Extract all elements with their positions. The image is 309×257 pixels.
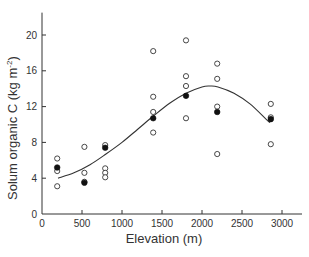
- y-tick-label: 4: [31, 173, 37, 184]
- open-data-point: [103, 175, 108, 180]
- x-tick-label: 500: [74, 218, 91, 229]
- chart: 050010001500200025003000 048121620 Eleva…: [0, 0, 309, 257]
- y-ticks: 048121620: [26, 30, 46, 220]
- x-tick-label: 2500: [231, 218, 254, 229]
- open-data-point: [151, 130, 156, 135]
- open-data-point: [215, 151, 220, 156]
- x-tick-label: 1000: [111, 218, 134, 229]
- y-axis-label: Solum organic C (kg m-2): [5, 56, 20, 200]
- open-data-point: [268, 142, 273, 147]
- open-data-point: [215, 104, 220, 109]
- open-data-point: [215, 61, 220, 66]
- open-data-point: [268, 101, 273, 106]
- y-tick-label: 12: [26, 101, 38, 112]
- open-data-point: [183, 116, 188, 121]
- open-data-point: [55, 156, 60, 161]
- y-tick-label: 20: [26, 30, 38, 41]
- filled-data-point: [150, 115, 156, 121]
- filled-data-point: [183, 93, 189, 99]
- open-data-point: [215, 76, 220, 81]
- x-tick-label: 1500: [151, 218, 174, 229]
- filled-data-point: [54, 165, 60, 171]
- scatter-plot: 050010001500200025003000 048121620 Eleva…: [0, 0, 309, 257]
- x-ticks: 050010001500200025003000: [39, 210, 293, 229]
- x-tick-label: 3000: [271, 218, 294, 229]
- y-tick-label: 0: [31, 209, 37, 220]
- y-tick-label: 8: [31, 137, 37, 148]
- x-tick-label: 0: [39, 218, 45, 229]
- open-data-point: [183, 74, 188, 79]
- filled-data-point: [82, 180, 88, 186]
- open-data-point: [183, 38, 188, 43]
- open-data-point: [151, 94, 156, 99]
- x-axis-label: Elevation (m): [126, 231, 203, 246]
- axes: 050010001500200025003000 048121620: [26, 13, 302, 229]
- open-data-point: [82, 144, 87, 149]
- filled-data-point: [214, 109, 220, 115]
- open-data-point: [82, 170, 87, 175]
- open-data-point: [151, 109, 156, 114]
- open-data-point: [183, 83, 188, 88]
- open-data-point: [151, 49, 156, 54]
- x-tick-label: 2000: [191, 218, 214, 229]
- y-tick-label: 16: [26, 65, 38, 76]
- filled-data-point: [102, 145, 108, 151]
- open-data-point: [55, 184, 60, 189]
- filled-data-point: [268, 116, 274, 122]
- fitted-curve: [58, 86, 270, 178]
